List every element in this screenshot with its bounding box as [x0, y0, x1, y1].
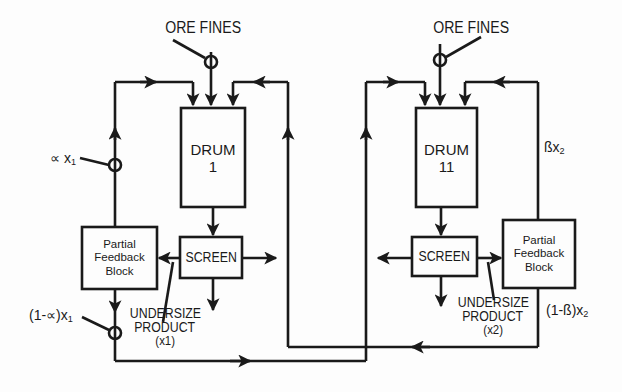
drum-1-label: DRUM 1 — [181, 138, 245, 178]
alpha-x1-label: ∝ x1 — [50, 151, 76, 167]
screen-2-label: SCREEN — [412, 237, 477, 276]
undersize-product-2-label: UNDERSIZE PRODUCT (x2) — [440, 291, 546, 339]
one-minus-beta-x2-label: (1-ß)x2 — [546, 303, 588, 319]
beta-x2-label: ßx2 — [544, 140, 565, 156]
undersize-product-1-label: UNDERSIZE PRODUCT (x1) — [112, 302, 218, 350]
one-minus-alpha-x1-label: (1-∝)x1 — [29, 308, 73, 324]
feedback-1-label: Partial Feedback Block — [82, 227, 157, 289]
ore-fines-2-label: ORE FINES — [428, 20, 514, 36]
drum-2-label: DRUM 11 — [416, 138, 477, 178]
process-flow-diagram: ORE FINES ORE FINES DRUM 1 DRUM 11 SCREE… — [0, 0, 622, 392]
ore-fines-1-label: ORE FINES — [160, 20, 246, 36]
feedback-2-label: Partial Feedback Block — [503, 220, 575, 288]
screen-1-label: SCREEN — [180, 237, 242, 278]
